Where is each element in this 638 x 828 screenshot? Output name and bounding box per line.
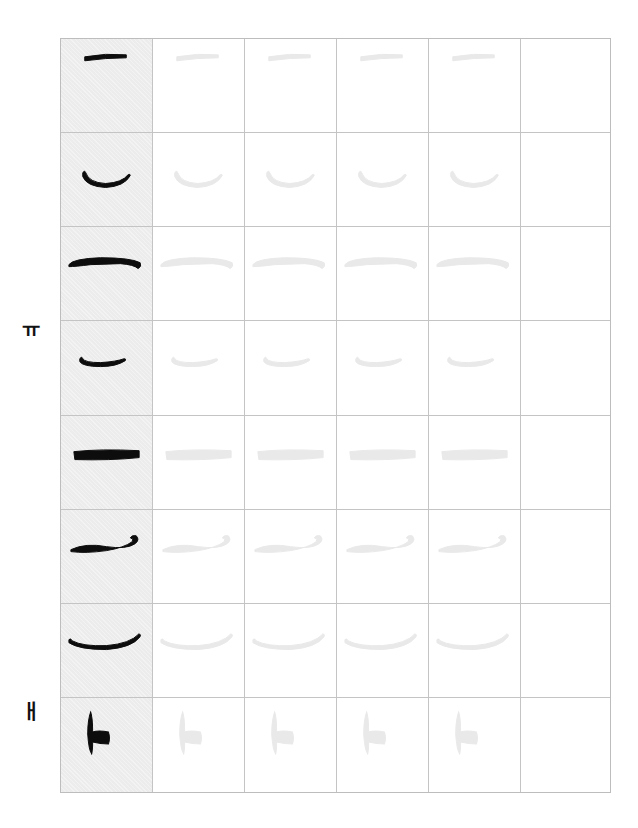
trace-stroke-cell-row-3: [429, 227, 521, 321]
trace-stroke-cell-row-8: [245, 698, 337, 792]
brush-stroke-icon: [153, 510, 244, 603]
brush-stroke-icon: [429, 227, 520, 320]
trace-stroke-cell-row-8: [153, 698, 245, 792]
brush-stroke-icon: [245, 227, 336, 320]
blank-practice-cell-row-2: [521, 133, 610, 227]
trace-stroke-cell-row-1: [245, 39, 337, 133]
brush-stroke-icon: [337, 133, 428, 226]
brush-stroke-icon: [153, 39, 244, 132]
brush-stroke-icon: [429, 698, 520, 792]
trace-stroke-cell-row-4: [245, 321, 337, 415]
brush-stroke-icon: [337, 321, 428, 414]
brush-stroke-icon: [61, 698, 152, 792]
trace-stroke-cell-row-7: [153, 604, 245, 698]
trace-stroke-cell-row-6: [245, 510, 337, 604]
trace-stroke-cell-row-3: [337, 227, 429, 321]
trace-stroke-cell-row-7: [337, 604, 429, 698]
trace-stroke-cell-row-6: [429, 510, 521, 604]
blank-practice-cell-row-4: [521, 321, 610, 415]
brush-stroke-icon: [153, 133, 244, 226]
side-label-yu: ㅠ: [22, 320, 40, 340]
trace-stroke-cell-row-5: [245, 416, 337, 510]
trace-stroke-cell-row-4: [153, 321, 245, 415]
brush-stroke-icon: [245, 133, 336, 226]
trace-stroke-cell-row-8: [429, 698, 521, 792]
brush-stroke-icon: [153, 604, 244, 697]
brush-stroke-icon: [429, 510, 520, 603]
trace-stroke-cell-row-5: [153, 416, 245, 510]
brush-stroke-icon: [245, 510, 336, 603]
trace-stroke-cell-row-5: [429, 416, 521, 510]
practice-sheet: [60, 38, 611, 793]
trace-stroke-cell-row-1: [337, 39, 429, 133]
trace-stroke-cell-row-5: [337, 416, 429, 510]
trace-stroke-cell-row-3: [153, 227, 245, 321]
trace-stroke-cell-row-1: [153, 39, 245, 133]
trace-stroke-cell-row-8: [337, 698, 429, 792]
brush-stroke-icon: [337, 227, 428, 320]
side-label-ae: ㅐ: [22, 702, 40, 722]
brush-stroke-icon: [245, 604, 336, 697]
trace-stroke-cell-row-4: [429, 321, 521, 415]
brush-stroke-icon: [61, 604, 152, 697]
model-stroke-cell-row-8: [61, 698, 153, 792]
blank-practice-cell-row-5: [521, 416, 610, 510]
brush-stroke-icon: [153, 416, 244, 509]
trace-stroke-cell-row-2: [429, 133, 521, 227]
blank-practice-cell-row-1: [521, 39, 610, 133]
trace-stroke-cell-row-1: [429, 39, 521, 133]
brush-stroke-icon: [429, 604, 520, 697]
brush-stroke-icon: [153, 698, 244, 792]
brush-stroke-icon: [429, 416, 520, 509]
model-stroke-cell-row-4: [61, 321, 153, 415]
blank-practice-cell-row-3: [521, 227, 610, 321]
blank-practice-cell-row-8: [521, 698, 610, 792]
blank-practice-cell-row-7: [521, 604, 610, 698]
brush-stroke-icon: [429, 321, 520, 414]
brush-stroke-icon: [245, 39, 336, 132]
trace-stroke-cell-row-3: [245, 227, 337, 321]
brush-stroke-icon: [61, 227, 152, 320]
model-stroke-cell-row-5: [61, 416, 153, 510]
trace-stroke-cell-row-7: [245, 604, 337, 698]
brush-stroke-icon: [245, 416, 336, 509]
brush-stroke-icon: [337, 698, 428, 792]
brush-stroke-icon: [429, 39, 520, 132]
model-stroke-cell-row-2: [61, 133, 153, 227]
model-stroke-cell-row-3: [61, 227, 153, 321]
brush-stroke-icon: [61, 416, 152, 509]
brush-stroke-icon: [61, 39, 152, 132]
brush-stroke-icon: [429, 133, 520, 226]
brush-stroke-icon: [61, 133, 152, 226]
brush-stroke-icon: [245, 321, 336, 414]
model-stroke-cell-row-1: [61, 39, 153, 133]
brush-stroke-icon: [61, 510, 152, 603]
trace-stroke-cell-row-4: [337, 321, 429, 415]
trace-stroke-cell-row-7: [429, 604, 521, 698]
trace-stroke-cell-row-2: [337, 133, 429, 227]
brush-stroke-icon: [337, 39, 428, 132]
brush-stroke-icon: [337, 416, 428, 509]
trace-stroke-cell-row-6: [153, 510, 245, 604]
trace-stroke-cell-row-2: [245, 133, 337, 227]
brush-stroke-icon: [337, 510, 428, 603]
model-stroke-cell-row-7: [61, 604, 153, 698]
brush-stroke-icon: [61, 321, 152, 414]
brush-stroke-icon: [337, 604, 428, 697]
brush-stroke-icon: [245, 698, 336, 792]
brush-stroke-icon: [153, 227, 244, 320]
model-stroke-cell-row-6: [61, 510, 153, 604]
trace-stroke-cell-row-6: [337, 510, 429, 604]
brush-stroke-icon: [153, 321, 244, 414]
practice-grid: [61, 39, 610, 792]
blank-practice-cell-row-6: [521, 510, 610, 604]
trace-stroke-cell-row-2: [153, 133, 245, 227]
